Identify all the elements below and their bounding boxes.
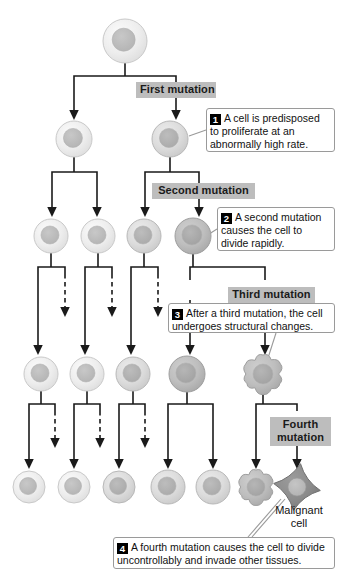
cell-r4-c1 xyxy=(13,471,45,503)
callout-text: A second mutation causes the cell to div… xyxy=(221,211,321,249)
cell-r3-c2 xyxy=(70,357,104,391)
connector-r3c4-fork xyxy=(168,404,213,411)
cell-r4-blob xyxy=(239,470,273,506)
cell-nucleus xyxy=(123,364,141,382)
cell-nucleus xyxy=(288,478,306,496)
connector-r3c3-fork xyxy=(119,404,145,411)
cell-r2-c2 xyxy=(81,219,115,253)
callout-number-badge: 2 xyxy=(221,213,232,224)
connector-r3c1-fork xyxy=(29,404,55,411)
cell-nucleus xyxy=(158,477,176,495)
figure-canvas: First mutation Second mutation Third mut… xyxy=(0,0,338,576)
leader-callout-3 xyxy=(268,333,276,358)
cell-nucleus xyxy=(176,363,196,383)
cell-nucleus xyxy=(65,478,82,495)
cell-r3-blob xyxy=(244,354,282,394)
cell-nucleus xyxy=(110,478,127,495)
cell-nucleus xyxy=(203,477,221,495)
cell-r4-c3 xyxy=(103,471,135,503)
connector-r3blob-fork xyxy=(256,404,297,411)
cell-r3-c4 xyxy=(169,356,205,392)
callout-number-badge: 1 xyxy=(210,114,221,125)
callout-3: 3After a third mutation, the cell underg… xyxy=(168,303,335,333)
cell-nucleus xyxy=(159,128,178,147)
connector-r2c1-fork xyxy=(38,267,65,274)
cell-r2-c1 xyxy=(34,219,68,253)
callout-number-badge: 3 xyxy=(172,309,183,320)
malignant-cell-caption-line1: Malignant xyxy=(262,504,336,517)
cell-nucleus xyxy=(88,226,106,244)
cell-nucleus xyxy=(182,225,202,245)
cell-nucleus xyxy=(20,478,37,495)
malignant-cell-caption-line2: cell xyxy=(262,517,336,530)
cell-r4-c5 xyxy=(196,470,230,504)
connector-r2c4-fork xyxy=(190,267,265,280)
stage-label-third-mutation: Third mutation xyxy=(228,287,315,303)
callout-1: 1A cell is predisposed to proliferate at… xyxy=(206,108,335,152)
cell-nucleus xyxy=(31,364,49,382)
callout-4: 4A fourth mutation causes the cell to di… xyxy=(113,537,335,569)
cell-r3-c3 xyxy=(116,357,150,391)
callout-2: 2A second mutation causes the cell to di… xyxy=(217,207,335,251)
connector-r1c1-fork xyxy=(52,172,97,178)
stage-label-text: Fourth mutation xyxy=(277,418,324,443)
connector-r1c2-fork xyxy=(145,172,199,178)
cell-nucleus xyxy=(247,478,265,496)
stage-label-text: Third mutation xyxy=(232,288,310,300)
cell-r1-c2 xyxy=(152,121,188,157)
leader-callout-1 xyxy=(189,130,206,136)
malignant-cell-caption: Malignant cell xyxy=(262,504,336,529)
cell-nucleus xyxy=(77,364,95,382)
connector-r2c2-fork xyxy=(85,267,112,274)
connector-r2c3-fork xyxy=(131,267,158,274)
cell-r4-c2 xyxy=(58,471,90,503)
cell-nucleus xyxy=(112,28,135,51)
cell-nucleus xyxy=(253,364,273,384)
callout-text: A fourth mutation causes the cell to div… xyxy=(117,541,325,566)
cell-nucleus xyxy=(63,128,82,147)
stage-label-fourth-mutation: Fourth mutation xyxy=(270,417,331,446)
cell-nucleus xyxy=(134,226,152,244)
stage-label-text: Second mutation xyxy=(158,184,249,196)
cell-root xyxy=(103,19,147,63)
callout-text: A cell is predisposed to proliferate at … xyxy=(210,112,320,150)
cell-nucleus xyxy=(41,226,59,244)
stage-label-second-mutation: Second mutation xyxy=(152,183,255,199)
cell-r3-c1 xyxy=(24,357,58,391)
callout-text: After a third mutation, the cell undergo… xyxy=(172,307,323,332)
cell-r1-c1 xyxy=(56,121,92,157)
cell-r4-c4 xyxy=(151,470,185,504)
stage-label-text: First mutation xyxy=(140,83,215,95)
callout-number-badge: 4 xyxy=(117,543,128,554)
cell-r2-c3 xyxy=(127,219,161,253)
cell-r2-c4 xyxy=(175,218,211,254)
connector-r3c2-fork xyxy=(74,404,100,411)
stage-label-first-mutation: First mutation xyxy=(136,82,216,98)
